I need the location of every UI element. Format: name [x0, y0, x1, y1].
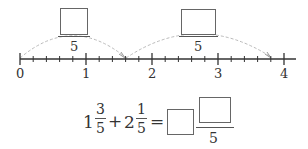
plus-sign: + — [108, 113, 122, 130]
jump-1-denominator: 5 — [70, 40, 78, 53]
jump-1-fraction-bar — [58, 36, 90, 37]
result-numerator-box[interactable] — [199, 97, 231, 123]
jump-1-numerator-box[interactable] — [60, 8, 88, 35]
result-whole-box[interactable] — [167, 109, 194, 135]
term2-numerator: 1 — [137, 102, 146, 116]
result-denominator: 5 — [209, 131, 218, 145]
jump-2-fraction-bar — [179, 36, 218, 37]
term2-whole: 2 — [124, 114, 135, 131]
tick-label-3: 3 — [214, 67, 222, 80]
term1-whole: 1 — [83, 114, 94, 131]
result-fraction-bar — [196, 127, 234, 128]
jump-2-denominator: 5 — [194, 40, 202, 53]
term2-fraction-bar — [136, 118, 147, 119]
term2-denominator: 5 — [137, 121, 146, 135]
equals-sign: = — [150, 113, 164, 130]
tick-label-4: 4 — [280, 67, 288, 80]
term1-fraction-bar — [95, 118, 106, 119]
term1-numerator: 3 — [96, 102, 105, 116]
tick-label-0: 0 — [16, 67, 24, 80]
number-line-ticks — [20, 53, 284, 65]
tick-label-2: 2 — [148, 67, 156, 80]
tick-label-1: 1 — [82, 67, 90, 80]
term1-denominator: 5 — [96, 121, 105, 135]
jump-2-numerator-box[interactable] — [181, 9, 216, 35]
